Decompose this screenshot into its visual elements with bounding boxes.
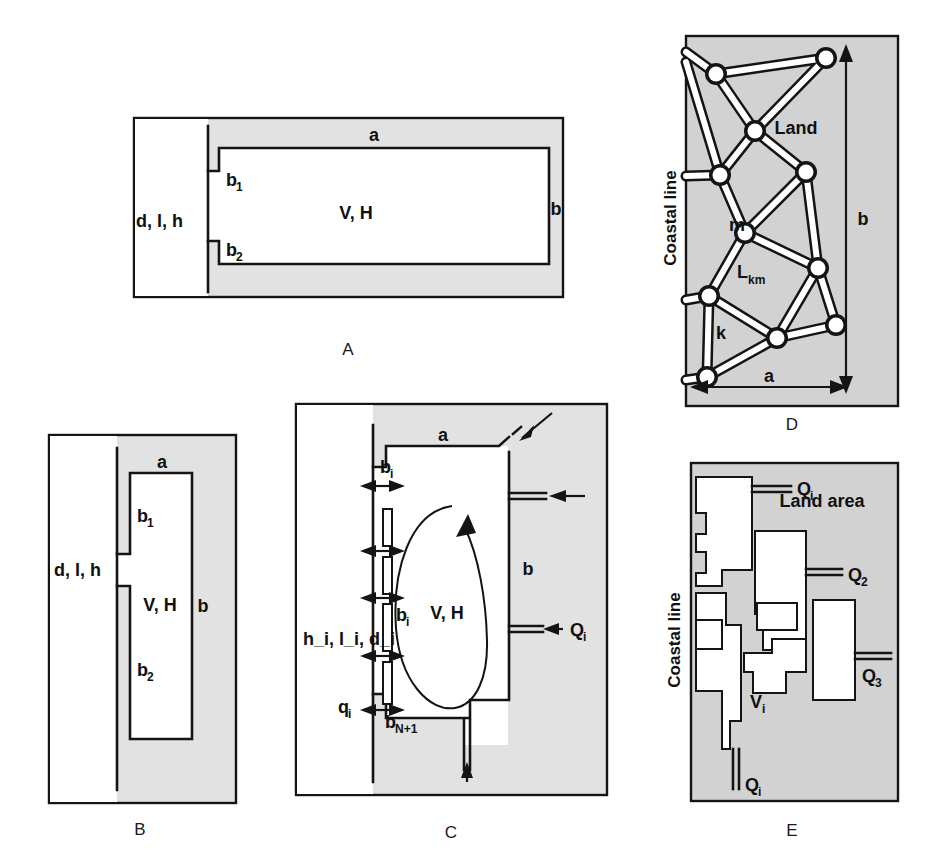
panel-a-label-b2-sub: 2 xyxy=(236,250,243,264)
panel-e-catchment-2 xyxy=(755,531,806,650)
panel-d-label-b: b xyxy=(858,209,869,229)
panel-b-label-params: d, l, h xyxy=(54,560,101,580)
panel-d-letter: D xyxy=(786,415,798,434)
panel-b-label-b1-sub: 1 xyxy=(147,516,154,530)
panel-e: Q i Q 2 Q 3 Q i V i Land area Coastal li… xyxy=(665,463,898,840)
panel-c-label-b: b xyxy=(523,559,534,579)
panel-a-label-vh: V, H xyxy=(339,203,372,223)
panel-d-label-land: Land xyxy=(775,118,818,138)
panel-d: Land m k L km a b Coastal line D xyxy=(661,36,898,434)
panel-b-letter: B xyxy=(134,820,145,839)
panel-a-label-a: a xyxy=(369,125,380,145)
panel-b: a b d, l, h b 1 b 2 V, H B xyxy=(49,435,236,839)
panel-c-strip-1 xyxy=(383,509,392,546)
panel-e-label-Qi-bottom-sub: i xyxy=(758,785,761,799)
panel-c-label-Qi: Q xyxy=(570,620,584,640)
panel-b-label-a: a xyxy=(157,452,168,472)
panel-e-label-Q3-sub: 3 xyxy=(875,676,882,690)
panel-e-catchment-6 xyxy=(696,620,722,649)
panel-c-label-strip-params: h_i, l_i, d_i xyxy=(303,629,395,649)
panel-d-label-coastal-line: Coastal line xyxy=(661,170,680,265)
panel-b-label-vh: V, H xyxy=(143,595,176,615)
panel-e-label-Q2-sub: 2 xyxy=(861,575,868,589)
panel-d-label-k: k xyxy=(716,323,727,343)
panel-e-catchment-5 xyxy=(813,600,855,700)
panel-d-label-lkm: L xyxy=(737,262,748,282)
panel-c-label-bi-top-sub: i xyxy=(390,467,393,481)
panel-c-letter: C xyxy=(445,823,457,842)
panel-d-label-lkm-sub: km xyxy=(748,273,765,287)
panel-c-label-bn1-sub: N+1 xyxy=(395,722,418,736)
panel-c-label-vh: V, H xyxy=(430,603,463,623)
panel-e-label-Q3: Q xyxy=(862,666,876,686)
panel-b-label-b2-sub: 2 xyxy=(147,670,154,684)
panel-a-label-b: b xyxy=(551,199,562,219)
panel-e-label-Vi-sub: i xyxy=(762,702,765,716)
panel-c: a b V, H b i b i b N+1 h_i, l_i, d_i q i… xyxy=(296,404,607,842)
panel-c-label-a: a xyxy=(438,425,449,445)
panel-e-catchment-7 xyxy=(757,603,797,630)
panel-c-strip-2 xyxy=(383,557,392,594)
panel-a-label-b1-sub: 1 xyxy=(236,180,243,194)
panel-c-sea-region xyxy=(297,405,373,794)
panel-a-sea-region xyxy=(135,119,208,296)
panel-a-aquifer-body xyxy=(208,148,549,264)
panel-e-letter: E xyxy=(786,821,797,840)
panel-a: a b d, l, h b 1 b 2 V, H A xyxy=(134,118,563,359)
panel-d-label-m: m xyxy=(729,215,745,235)
panel-c-label-Qi-sub: i xyxy=(583,630,586,644)
panel-e-label-coastal-line: Coastal line xyxy=(665,592,684,687)
panel-e-label-Vi: V xyxy=(750,692,762,712)
panel-c-label-qi-small-sub: i xyxy=(348,707,351,721)
panel-e-label-land-area: Land area xyxy=(779,491,865,511)
panel-c-strip-4 xyxy=(383,662,392,704)
panel-c-label-bi-mid-sub: i xyxy=(406,615,409,629)
panel-a-label-params: d, l, h xyxy=(136,211,183,231)
panel-b-label-b: b xyxy=(198,596,209,616)
figure-svg: a b d, l, h b 1 b 2 V, H A a b d, l, h b… xyxy=(0,0,945,868)
panel-e-label-Q2: Q xyxy=(848,565,862,585)
panel-a-letter: A xyxy=(342,340,354,359)
figure-root: a b d, l, h b 1 b 2 V, H A a b d, l, h b… xyxy=(0,0,945,868)
panel-d-label-a: a xyxy=(764,366,775,386)
panel-b-sea-region xyxy=(50,436,117,802)
panel-e-label-Qi-bottom: Q xyxy=(745,775,759,795)
